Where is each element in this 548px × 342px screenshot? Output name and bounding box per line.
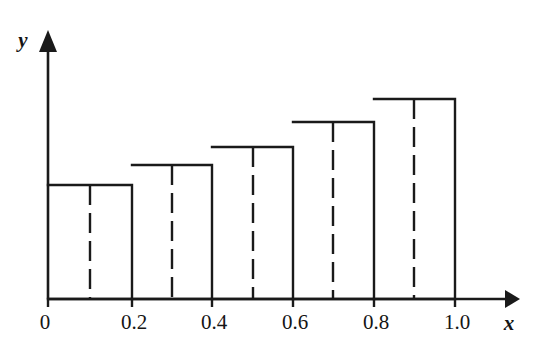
x-tick-label-3: 0.6 [282,310,308,334]
x-tick-label-4: 0.8 [363,310,389,334]
x-tick-label-1: 0.2 [121,310,147,334]
chart-background [0,0,548,342]
x-tick-label-5: 1.0 [444,310,470,334]
figure-root: 0 0.2 0.4 0.6 0.8 1.0 x y [0,0,548,342]
x-tick-label-2: 0.4 [201,310,228,334]
x-tick-label-0: 0 [40,310,51,334]
x-axis-label: x [503,311,515,335]
step-function-chart: 0 0.2 0.4 0.6 0.8 1.0 x y [0,0,548,342]
